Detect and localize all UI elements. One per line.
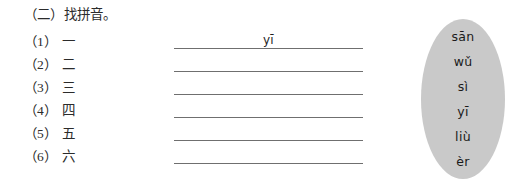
- word-bank-item[interactable]: wǔ: [454, 52, 473, 71]
- item-character: 一: [62, 30, 75, 53]
- answer-blank-row[interactable]: [174, 99, 363, 122]
- question-list: （1） 一 （2） 二 （3） 三 （4） 四 （5） 五 （6） 六: [24, 30, 164, 168]
- answer-blank-row[interactable]: [174, 145, 363, 168]
- blank-rule-line: [174, 140, 363, 141]
- answer-text: yī: [174, 34, 363, 47]
- item-number: （6）: [24, 145, 57, 168]
- blank-rule-line: [174, 94, 363, 95]
- word-bank-item[interactable]: èr: [456, 152, 469, 171]
- answer-blank-row[interactable]: [174, 53, 363, 76]
- item-number: （4）: [24, 99, 57, 122]
- word-bank-item[interactable]: yī: [457, 102, 468, 121]
- word-bank-item[interactable]: sì: [458, 77, 469, 96]
- item-number: （1）: [24, 30, 57, 53]
- item-character: 五: [62, 122, 75, 145]
- answer-blank-row[interactable]: [174, 122, 363, 145]
- pinyin-word-bank: sān wǔ sì yī liù èr: [421, 19, 505, 179]
- list-item: （2） 二: [24, 53, 164, 76]
- list-item: （3） 三: [24, 76, 164, 99]
- list-item: （1） 一: [24, 30, 164, 53]
- item-number: （2）: [24, 53, 57, 76]
- answer-blank-row[interactable]: yī: [174, 30, 363, 53]
- item-character: 六: [62, 145, 75, 168]
- list-item: （5） 五: [24, 122, 164, 145]
- item-character: 二: [62, 53, 75, 76]
- item-number: （5）: [24, 122, 57, 145]
- list-item: （4） 四: [24, 99, 164, 122]
- blank-rule-line: [174, 117, 363, 118]
- blank-rule-line: [174, 48, 363, 49]
- item-character: 四: [62, 99, 75, 122]
- word-bank-item[interactable]: sān: [452, 27, 475, 46]
- answer-blank-row[interactable]: [174, 76, 363, 99]
- item-number: （3）: [24, 76, 57, 99]
- blank-rule-line: [174, 163, 363, 164]
- page-title: （二）找拼音。: [24, 6, 116, 23]
- list-item: （6） 六: [24, 145, 164, 168]
- item-character: 三: [62, 76, 75, 99]
- word-bank-item[interactable]: liù: [455, 127, 471, 146]
- blank-rule-line: [174, 71, 363, 72]
- answer-blanks: yī: [174, 30, 363, 168]
